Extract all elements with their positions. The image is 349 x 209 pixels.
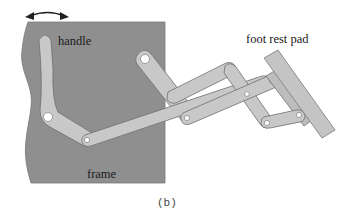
double-arrow-icon: [25, 12, 69, 20]
handle-label: handle: [58, 34, 92, 48]
foot-rest-pad-label: foot rest pad: [246, 32, 309, 46]
figure-caption: (b): [157, 197, 177, 209]
footrest-mechanism-diagram: handle frame foot rest pad (b): [0, 0, 349, 209]
frame-label: frame: [87, 167, 117, 181]
handle-pivot-joint: [44, 113, 53, 122]
